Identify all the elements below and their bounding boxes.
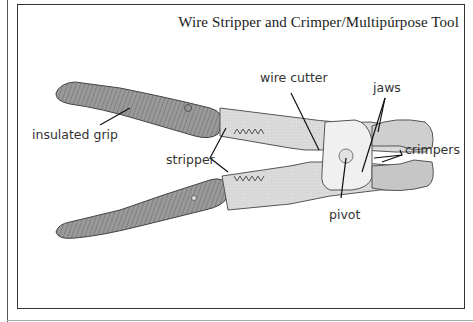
label-pivot: pivot xyxy=(329,207,360,222)
label-insulated-grip: insulated grip xyxy=(32,127,118,142)
tool-illustration xyxy=(0,0,473,322)
label-wire-cutter: wire cutter xyxy=(260,70,328,85)
label-stripper: stripper xyxy=(166,152,215,167)
lower-grip xyxy=(56,179,228,239)
label-jaws: jaws xyxy=(373,80,401,95)
pivot-plate xyxy=(322,120,372,190)
label-crimpers: crimpers xyxy=(405,142,460,157)
